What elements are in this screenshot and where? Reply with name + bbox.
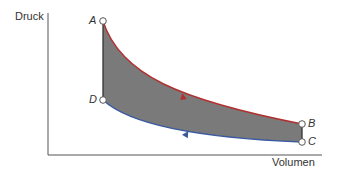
y-axis-label: Druck	[15, 10, 44, 22]
pv-diagram	[0, 0, 338, 169]
point-label-d: D	[89, 93, 97, 105]
point-c	[299, 139, 306, 146]
x-axis-label: Volumen	[272, 156, 315, 168]
cycle-area	[103, 21, 302, 142]
point-label-a: A	[89, 14, 96, 26]
point-a	[100, 18, 107, 25]
point-label-c: C	[308, 135, 316, 147]
point-d	[100, 97, 107, 104]
arrow-left-icon	[182, 131, 188, 138]
point-b	[299, 121, 306, 128]
point-label-b: B	[308, 117, 315, 129]
